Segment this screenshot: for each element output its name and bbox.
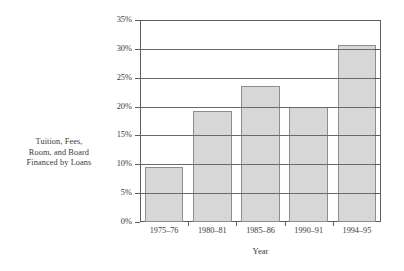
gridline xyxy=(140,78,381,79)
bar xyxy=(193,111,232,222)
right-axis-tick xyxy=(373,107,381,108)
x-axis-title: Year xyxy=(140,246,381,256)
gridline xyxy=(140,107,381,108)
y-axis-label-line-2: Room, and Board xyxy=(6,148,112,159)
y-axis-tick-label: 20% xyxy=(0,103,132,111)
y-axis-tick-label: 15% xyxy=(0,131,132,139)
gridline xyxy=(140,49,381,50)
right-axis-tick xyxy=(373,135,381,136)
gridline xyxy=(140,135,381,136)
y-axis-tick-label: 10% xyxy=(0,160,132,168)
y-axis-tick xyxy=(135,78,140,79)
x-axis-tick-label: 1975–76 xyxy=(140,226,188,235)
y-axis-tick-label: 30% xyxy=(0,45,132,53)
x-axis-tick-label: 1994–95 xyxy=(333,226,381,235)
y-axis-tick xyxy=(135,222,140,223)
bar-chart-figure: Tuition, Fees, Room, and Board Financed … xyxy=(0,0,404,271)
y-axis-tick xyxy=(135,164,140,165)
gridline xyxy=(140,164,381,165)
gridline xyxy=(140,193,381,194)
right-axis-tick xyxy=(373,164,381,165)
y-axis-tick xyxy=(135,49,140,50)
y-axis-tick-label: 5% xyxy=(0,189,132,197)
y-axis-tick-label: 35% xyxy=(0,16,132,24)
plot-area xyxy=(140,20,381,222)
y-axis-tick xyxy=(135,20,140,21)
right-axis-tick xyxy=(373,49,381,50)
x-axis-tick-label: 1990–91 xyxy=(285,226,333,235)
right-axis-tick xyxy=(373,193,381,194)
y-axis-tick-label: 25% xyxy=(0,74,132,82)
y-axis-spine xyxy=(140,20,141,222)
x-axis-tick-label: 1985–86 xyxy=(236,226,284,235)
bar xyxy=(338,45,377,222)
bar xyxy=(145,167,184,222)
y-axis-tick xyxy=(135,135,140,136)
x-axis-tick-label: 1980–81 xyxy=(188,226,236,235)
right-axis-tick xyxy=(373,78,381,79)
y-axis-tick xyxy=(135,107,140,108)
y-axis-tick xyxy=(135,193,140,194)
y-axis-tick-label: 0% xyxy=(0,218,132,226)
top-axis-spine xyxy=(140,20,381,21)
right-axis-spine xyxy=(380,20,381,222)
